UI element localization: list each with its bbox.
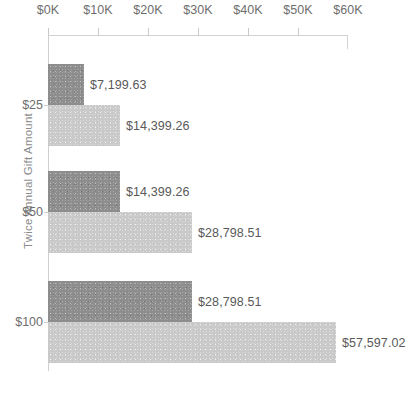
x-tick-label-1: $10K	[83, 3, 113, 17]
bar-label-25-dark: $7,199.63	[90, 78, 147, 92]
bar-chart: $0K $10K $20K $30K $40K $50K $60K Twice …	[0, 0, 411, 393]
x-axis-labels: $0K $10K $20K $30K $40K $50K $60K	[0, 0, 411, 24]
bar-label-100-light: $57,597.02	[342, 336, 406, 350]
x-tick-label-3: $30K	[183, 3, 213, 17]
bar-label-50-dark: $14,399.26	[126, 185, 190, 199]
x-tick-label-0: $0K	[37, 3, 60, 17]
bar-25-dark[interactable]	[48, 64, 84, 105]
y-tick-label-100: $100	[0, 315, 43, 329]
y-axis-title: Twice Annual Gift Amount	[22, 91, 34, 271]
x-axis-tick-3	[198, 28, 199, 36]
y-tick-label-25: $25	[0, 98, 43, 112]
bar-25-light[interactable]	[48, 105, 120, 146]
bar-label-50-light: $28,798.51	[198, 226, 262, 240]
bar-100-light[interactable]	[48, 322, 336, 363]
bar-50-light[interactable]	[48, 212, 192, 253]
x-axis-end-cap	[347, 35, 348, 49]
chart-bottom-caption	[48, 384, 368, 393]
x-tick-label-4: $40K	[233, 3, 263, 17]
bar-label-25-light: $14,399.26	[126, 119, 190, 133]
x-axis-tick-2	[148, 28, 149, 36]
x-axis-tick-4	[248, 28, 249, 36]
x-axis-tick-5	[298, 28, 299, 36]
bar-100-dark[interactable]	[48, 281, 192, 322]
x-tick-label-2: $20K	[133, 3, 163, 17]
bar-label-100-dark: $28,798.51	[198, 295, 262, 309]
x-tick-label-6: $60K	[333, 3, 363, 17]
x-axis-tick-1	[98, 28, 99, 36]
x-tick-label-5: $50K	[283, 3, 313, 17]
bar-50-dark[interactable]	[48, 171, 120, 212]
y-tick-label-50: $50	[0, 205, 43, 219]
